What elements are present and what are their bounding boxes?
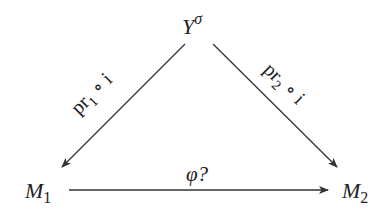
arrow-bottom-label: φ? [186, 162, 209, 186]
node-right-sub: 2 [360, 189, 368, 206]
node-m2: M2 [341, 178, 368, 206]
commutative-diagram: Yσ M1 M2 pr1 ∘ i pr2 ∘ i φ? [0, 0, 388, 212]
svg-text:pr1 ∘ i: pr1 ∘ i [66, 68, 119, 121]
svg-text:pr2 ∘ i: pr2 ∘ i [257, 58, 310, 111]
node-left-base: M [24, 178, 45, 203]
node-top-sup: σ [194, 10, 203, 27]
arrow-left-label: pr1 ∘ i [66, 68, 119, 121]
svg-text:M2: M2 [341, 178, 368, 206]
node-m1: M1 [24, 178, 51, 206]
node-y-sigma: Yσ [182, 10, 203, 39]
svg-text:Yσ: Yσ [182, 10, 203, 39]
svg-text:M1: M1 [24, 178, 51, 206]
arrow-right-label: pr2 ∘ i [257, 58, 310, 111]
node-left-sub: 1 [43, 189, 51, 206]
node-right-base: M [341, 178, 362, 203]
